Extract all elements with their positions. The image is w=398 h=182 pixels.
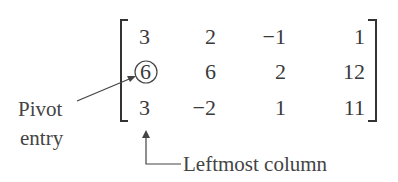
pivot-label-line2: entry [20, 127, 63, 149]
matrix-cell-r1c3: −1 [246, 26, 286, 48]
matrix-cell-r1c4: 1 [325, 26, 365, 48]
column-label: Leftmost column [183, 153, 327, 175]
matrix-cell-r1c1: 3 [110, 26, 150, 48]
matrix-cell-r2c2: 6 [176, 61, 216, 83]
matrix-cell-r2c3: 2 [246, 61, 286, 83]
matrix-cell-r3c4: 11 [325, 97, 365, 119]
column-arrow-line [146, 133, 181, 164]
matrix-cell-r1c2: 2 [176, 26, 216, 48]
pivot-entry: 6 [111, 61, 151, 83]
matrix-cell-r3c3: 1 [246, 97, 286, 119]
matrix-cell-r2c4: 12 [325, 61, 365, 83]
matrix-cell-r3c2: −2 [176, 97, 216, 119]
pivot-label-line1: Pivot [18, 98, 62, 120]
matrix-cell-r3c1: 3 [110, 97, 150, 119]
right-bracket [368, 20, 376, 121]
column-arrow-head [142, 130, 150, 138]
